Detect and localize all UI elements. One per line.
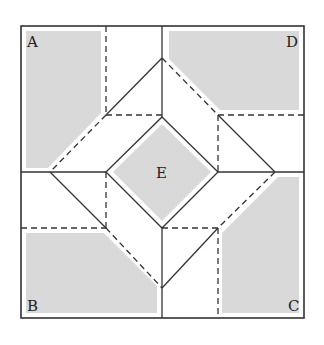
region-c [222, 177, 299, 313]
label-d: D [286, 33, 298, 51]
region-b [26, 233, 157, 313]
label-b: B [27, 297, 38, 315]
region-d [169, 31, 299, 110]
label-e: E [156, 164, 167, 182]
quilt-diagram: A D B C E [0, 0, 324, 345]
label-a: A [26, 33, 38, 51]
region-a [26, 31, 101, 168]
label-c: C [288, 297, 299, 315]
